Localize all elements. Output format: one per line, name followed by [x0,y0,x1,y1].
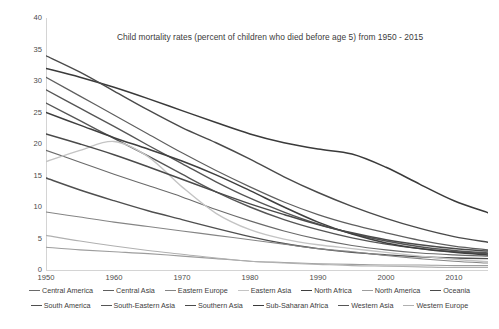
x-tick-label: 1990 [298,273,338,282]
legend-swatch-icon [31,305,42,306]
y-tick-label: 10 [20,203,42,211]
y-axis-ticks: 0510152025303540 [14,0,42,271]
legend-label: Sub-Saharan Africa [266,301,328,310]
legend-label: North Africa [314,286,352,295]
y-tick-label: 40 [20,14,42,22]
line-chart: Child mortality rates (percent of childr… [0,0,499,329]
legend-swatch-icon [362,290,373,291]
legend-swatch-icon [301,290,312,291]
legend-item[interactable]: Southern Asia [185,301,243,310]
legend-item[interactable]: Central Asia [103,286,155,295]
x-tick-label: 1980 [230,273,270,282]
series-line [46,77,488,250]
legend-label: Southern Asia [198,301,243,310]
legend-label: Eastern Asia [251,286,291,295]
legend-swatch-icon [238,290,249,291]
y-tick-label: 25 [20,109,42,117]
legend-item[interactable]: Western Asia [338,301,393,310]
legend-label: Oceania [443,286,470,295]
legend-item[interactable]: North America [362,286,421,295]
x-tick-label: 2010 [434,273,474,282]
legend-swatch-icon [253,305,264,306]
legend-item[interactable]: Central America [29,286,93,295]
legend-swatch-icon [103,290,114,291]
legend-swatch-icon [338,305,349,306]
series-canvas [46,18,488,270]
legend-swatch-icon [101,305,112,306]
legend-item[interactable]: South America [31,301,91,310]
series-line [46,212,488,263]
legend-swatch-icon [29,290,40,291]
legend-item[interactable]: Western Europe [403,301,468,310]
y-tick-label: 5 [20,235,42,243]
legend-label: Central Asia [116,286,155,295]
legend-row: South AmericaSouth-Eastern AsiaSouthern … [0,299,499,312]
x-axis-line [46,270,488,271]
x-tick-label: 2000 [366,273,406,282]
legend-label: Western Europe [416,301,468,310]
legend-item[interactable]: South-Eastern Asia [101,301,176,310]
x-tick-label: 1950 [26,273,66,282]
legend-swatch-icon [185,305,196,306]
legend-label: Central America [42,286,93,295]
legend-label: Western Asia [351,301,393,310]
legend-item[interactable]: North Africa [301,286,352,295]
x-tick-label: 1970 [162,273,202,282]
chart-legend: Central AmericaCentral AsiaEastern Europ… [0,284,499,318]
legend-label: Eastern Europe [178,286,228,295]
legend-swatch-icon [403,305,414,306]
y-tick-label: 20 [20,140,42,148]
legend-item[interactable]: Eastern Europe [165,286,228,295]
legend-label: South America [44,301,91,310]
plot-area [46,18,488,270]
legend-row: Central AmericaCentral AsiaEastern Europ… [0,284,499,297]
series-line [46,141,488,261]
legend-swatch-icon [165,290,176,291]
series-line [46,113,488,255]
x-tick-label: 1960 [94,273,134,282]
y-tick-label: 35 [20,46,42,54]
legend-label: South-Eastern Asia [114,301,176,310]
legend-item[interactable]: Oceania [430,286,470,295]
y-tick-label: 15 [20,172,42,180]
legend-swatch-icon [430,290,441,291]
series-line [46,134,488,251]
legend-item[interactable]: Eastern Asia [238,286,291,295]
legend-item[interactable]: Sub-Saharan Africa [253,301,328,310]
legend-label: North America [375,286,421,295]
y-tick-label: 30 [20,77,42,85]
